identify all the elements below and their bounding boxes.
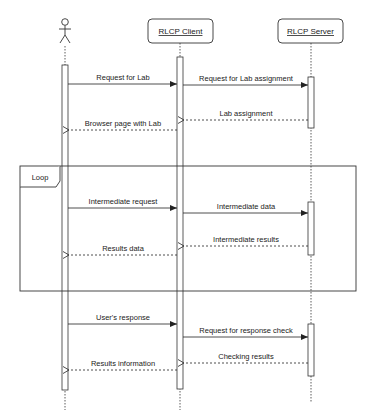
message-6: Intermediate data	[183, 202, 308, 213]
message-5: Intermediate request	[68, 197, 177, 208]
message-label: Intermediate results	[213, 235, 279, 244]
message-label: Intermediate data	[217, 202, 276, 211]
activation-server-1	[308, 77, 314, 128]
stick-figure-icon	[59, 19, 71, 43]
message-label: Results information	[91, 359, 155, 368]
message-12: Results information	[69, 359, 177, 370]
message-11: Checking results	[184, 352, 308, 363]
participant-client-label: RLCP Client	[159, 27, 204, 36]
activation-user	[62, 65, 68, 390]
message-4: Browser page with Lab	[69, 119, 177, 130]
message-2: Request for Lab assignment	[183, 74, 308, 85]
sequence-diagram: RLCP Client RLCP Server Loop Request for…	[0, 0, 372, 417]
message-label: Intermediate request	[89, 197, 159, 206]
activation-server-3	[308, 324, 314, 376]
activation-client	[177, 57, 183, 389]
message-9: User's response	[68, 313, 177, 324]
loop-label: Loop	[32, 173, 49, 182]
message-label: Browser page with Lab	[85, 119, 161, 128]
message-3: Lab assignment	[184, 109, 308, 120]
message-label: Lab assignment	[220, 109, 274, 118]
message-10: Request for response check	[183, 326, 308, 337]
message-label: Checking results	[218, 352, 274, 361]
message-label: Request for Lab assignment	[199, 74, 294, 83]
message-label: Request for Lab	[96, 73, 149, 82]
message-8: Results data	[69, 244, 177, 255]
message-label: User's response	[96, 313, 150, 322]
message-7: Intermediate results	[184, 235, 308, 246]
message-label: Results data	[102, 244, 145, 253]
participant-server-label: RLCP Server	[287, 27, 334, 36]
activation-server-2	[308, 202, 314, 255]
actor-user	[59, 19, 71, 410]
loop-frame	[20, 166, 356, 291]
message-label: Request for response check	[199, 326, 293, 335]
message-1: Request for Lab	[68, 73, 177, 84]
loop-fragment: Loop	[20, 166, 356, 291]
